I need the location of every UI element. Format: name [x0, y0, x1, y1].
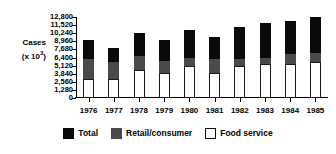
bar-segment-total: [310, 17, 321, 53]
bar-group: [76, 17, 328, 98]
bar-segment-retail-consumer: [159, 61, 170, 74]
bar-segment-food-service: [184, 66, 195, 98]
legend-entry: Retail/consumer: [111, 128, 192, 139]
x-axis-tick-mark: [139, 98, 140, 102]
y-axis-tick-label: 1,280: [31, 86, 73, 94]
x-axis-tick-label: 1985: [306, 106, 324, 115]
bar-stack: [285, 21, 296, 98]
x-axis-tick-mark: [240, 98, 241, 102]
x-axis-tick-mark: [89, 98, 90, 102]
bar-segment-retail-consumer: [134, 56, 145, 70]
legend-label: Total: [78, 129, 98, 138]
bar-segment-total: [285, 21, 296, 55]
plot-area: 01,2802,5603,8405,1206,4007,6808,96010,2…: [76, 17, 328, 98]
legend-label: Retail/consumer: [126, 129, 192, 138]
bar-stack: [159, 40, 170, 98]
y-axis-tick-label: 3,840: [31, 70, 73, 78]
bar-segment-total: [234, 27, 245, 59]
bar-segment-retail-consumer: [285, 54, 296, 63]
x-axis-tick-label: 1984: [281, 106, 299, 115]
bar-segment-food-service: [285, 64, 296, 98]
bar-stack: [310, 17, 321, 98]
bar-chart-figure: Cases (x 103) 01,2802,5603,8405,1206,400…: [0, 0, 336, 154]
bar-segment-retail-consumer: [184, 58, 195, 67]
bar-segment-food-service: [260, 64, 271, 98]
y-axis-tick-label: 5,120: [31, 62, 73, 70]
bar-stack: [134, 33, 145, 98]
bar-segment-food-service: [310, 62, 321, 98]
y-axis-tick-label: 0: [31, 94, 73, 102]
y-axis-tick-label: 11,520: [31, 21, 73, 29]
y-axis-tick-label: 12,800: [31, 13, 73, 21]
legend-swatch-total: [63, 128, 74, 139]
y-axis-tick-mark: [72, 98, 76, 99]
bar-stack: [234, 27, 245, 98]
bar-segment-total: [83, 40, 94, 59]
bar-segment-food-service: [209, 73, 220, 98]
x-axis-tick-label: 1976: [80, 106, 98, 115]
bar-segment-total: [159, 40, 170, 61]
legend-swatch-retail: [111, 128, 122, 139]
x-axis-tick-label: 1977: [105, 106, 123, 115]
bar-segment-total: [260, 23, 271, 58]
bar-segment-retail-consumer: [234, 59, 245, 67]
bar-segment-retail-consumer: [209, 59, 220, 73]
y-axis-tick-label: 8,960: [31, 38, 73, 46]
bar-segment-food-service: [134, 70, 145, 98]
bar-segment-retail-consumer: [260, 58, 271, 65]
x-axis-tick-mark: [215, 98, 216, 102]
x-axis-tick-mark: [290, 98, 291, 102]
bar-stack: [83, 40, 94, 98]
x-axis-tick-mark: [114, 98, 115, 102]
legend-swatch-foodservice: [205, 128, 216, 139]
bar-segment-food-service: [159, 73, 170, 98]
legend-entry: Total: [63, 128, 98, 139]
x-axis-tick-mark: [164, 98, 165, 102]
y-axis-tick-label: 7,680: [31, 46, 73, 54]
bar-stack: [108, 48, 119, 98]
bar-segment-food-service: [83, 79, 94, 98]
chart-legend: TotalRetail/consumerFood service: [0, 128, 336, 139]
legend-label: Food service: [220, 129, 272, 138]
bar-segment-total: [209, 37, 220, 59]
bar-stack: [184, 30, 195, 98]
bar-segment-retail-consumer: [83, 59, 94, 79]
x-axis-tick-mark: [189, 98, 190, 102]
x-axis-tick-label: 1982: [231, 106, 249, 115]
y-axis-tick-label: 2,560: [31, 78, 73, 86]
x-axis-tick-label: 1983: [256, 106, 274, 115]
bar-segment-food-service: [108, 79, 119, 98]
x-axis-tick-label: 1980: [180, 106, 198, 115]
bar-segment-retail-consumer: [108, 62, 119, 79]
bar-segment-retail-consumer: [310, 53, 321, 62]
bar-segment-food-service: [234, 66, 245, 98]
bar-stack: [260, 23, 271, 98]
bar-stack: [209, 37, 220, 98]
legend-entry: Food service: [205, 128, 272, 139]
x-axis-tick-label: 1979: [155, 106, 173, 115]
x-axis-tick-mark: [315, 98, 316, 102]
bar-segment-total: [184, 30, 195, 58]
x-axis-tick-label: 1981: [206, 106, 224, 115]
y-axis-tick-label: 6,400: [31, 54, 73, 62]
bar-segment-total: [108, 48, 119, 62]
bar-segment-total: [134, 33, 145, 56]
x-axis-tick-mark: [265, 98, 266, 102]
y-axis-tick-label: 10,240: [31, 29, 73, 37]
x-axis-tick-label: 1978: [130, 106, 148, 115]
